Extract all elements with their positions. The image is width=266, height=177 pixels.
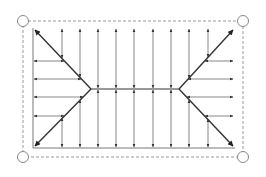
diagram-canvas: [0, 0, 266, 177]
corner-node-bottom-right-icon: [238, 152, 249, 163]
hip-top-right: [179, 30, 233, 89]
corner-node-top-left-icon: [18, 16, 29, 27]
corner-node-top-right-icon: [238, 16, 249, 27]
hip-bottom-right: [179, 89, 233, 146]
vertical-arrows: [62, 29, 208, 147]
hip-roof-diagram: [0, 0, 266, 177]
hip-bottom-left: [35, 89, 91, 146]
hip-top-left: [35, 30, 91, 89]
corner-node-bottom-left-icon: [18, 152, 29, 163]
